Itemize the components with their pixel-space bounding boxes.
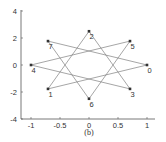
x-tick-label: 0.5 [113, 121, 123, 130]
x-tick-label: -1 [28, 121, 35, 130]
point-label-5: 5 [130, 42, 134, 51]
point-label-7: 7 [48, 42, 52, 51]
point-label-0: 0 [147, 66, 151, 75]
point-label-6: 6 [89, 100, 93, 109]
y-tick-label: 2 [13, 34, 17, 43]
x-tick-label: -0.5 [54, 121, 67, 130]
star-plot: -4-2024-1-0.500.51 01234567 (b) [0, 0, 166, 142]
y-tick-label: 4 [13, 7, 17, 16]
y-tick-label: -2 [10, 88, 17, 97]
point-label-4: 4 [31, 66, 35, 75]
point-label-2: 2 [89, 32, 93, 41]
point-label-3: 3 [130, 90, 134, 99]
point-labels: 01234567 [31, 32, 151, 109]
x-tick-label: 1 [145, 121, 149, 130]
y-tick-label: 0 [13, 61, 17, 70]
y-tick-label: -4 [10, 115, 17, 124]
point-label-1: 1 [48, 90, 52, 99]
figure-caption: (b) [84, 128, 94, 137]
